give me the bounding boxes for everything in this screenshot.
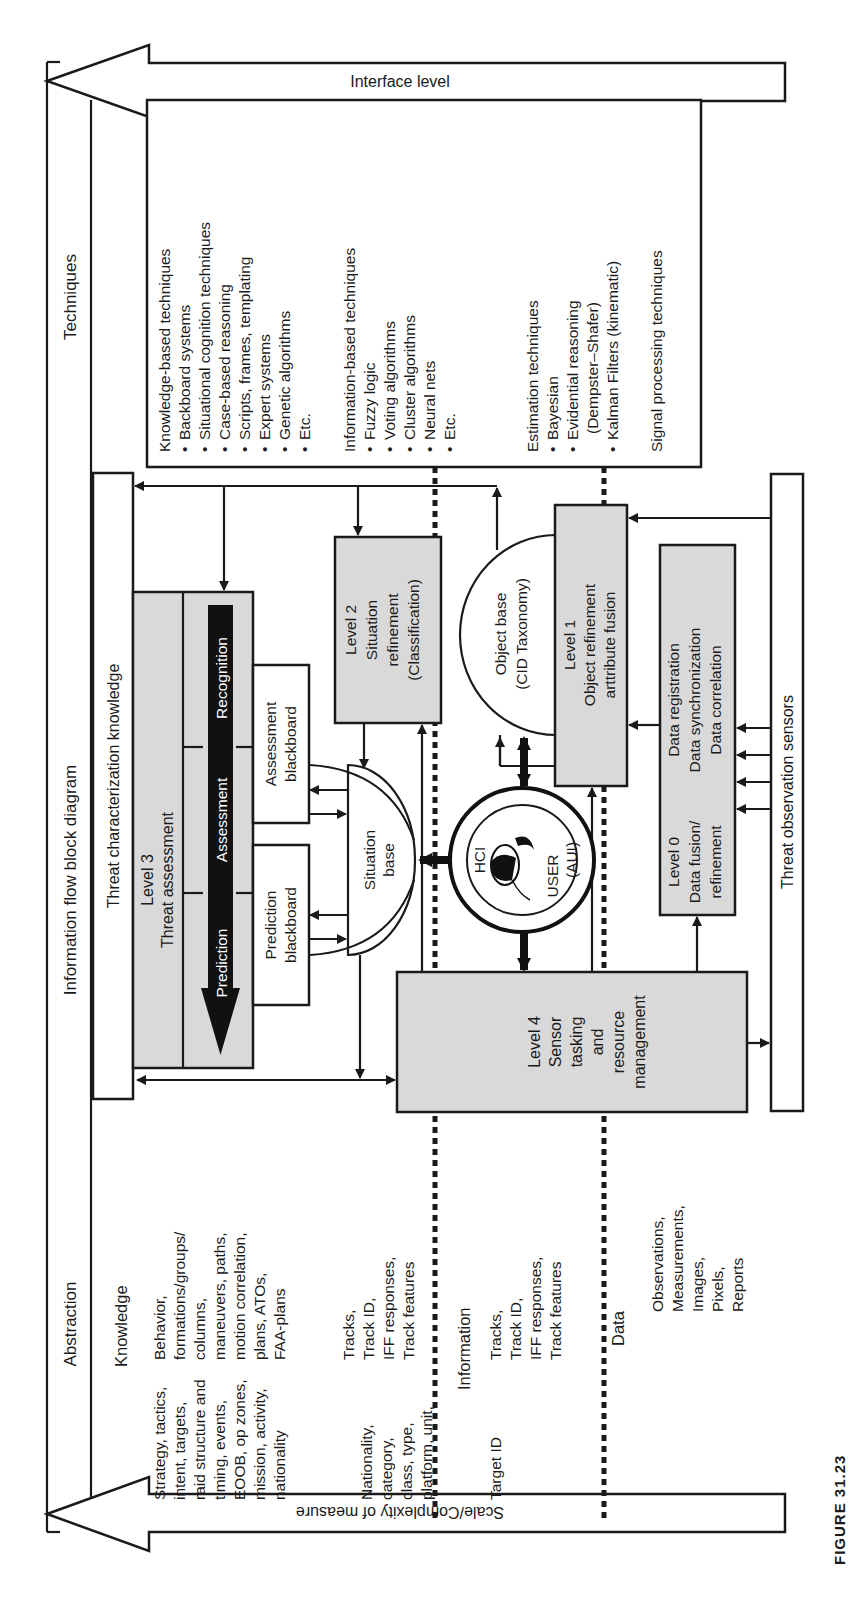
knowledge-techniques-heading: Knowledge-based techniques — [156, 248, 173, 452]
data-col2-item: Reports — [729, 1257, 746, 1312]
hci-user-node: HCI USER (AUI) — [450, 788, 594, 932]
signal-processing-techniques: Signal processing techniques — [648, 250, 665, 452]
bullet-item: • — [381, 447, 398, 452]
assessment-blackboard: Assessment blackboard — [253, 665, 309, 823]
level0-line1: Level 0 — [665, 837, 682, 887]
object-base-line1: Object base — [492, 593, 509, 676]
knowledge-col2-item: columns, — [191, 1298, 208, 1360]
knowledge-col1-item: timing, events, — [211, 1400, 228, 1500]
bullet-item: • — [196, 447, 213, 452]
knowledge-col2-item: Behavior, — [151, 1295, 168, 1360]
figure-caption: FIGURE 31.23 — [831, 1455, 848, 1565]
data-heading: Data — [609, 1310, 627, 1346]
information-flow-diagram: Interface level Scale/Complexity of meas… — [0, 0, 851, 1611]
level2-situation-refinement-block: Level 2 Situation refinement (Classifica… — [335, 537, 441, 723]
level0-line2: Data fusion/ — [686, 820, 703, 903]
technique-item: Expert systems — [256, 334, 273, 440]
bullet-item: • — [216, 447, 233, 452]
assessment-bb-line1: Assessment — [262, 701, 279, 786]
information-col2-item: IFF responses, — [527, 1257, 544, 1360]
assessment-bb-line2: blackboard — [282, 706, 299, 782]
technique-item: Bayesian — [544, 376, 561, 440]
data-correlation: Data correlation — [707, 645, 724, 754]
data-col2-item: Images, — [689, 1257, 706, 1312]
knowledge-col2-item: plans, ATOs, — [251, 1273, 268, 1360]
stage-assessment: Assessment — [213, 777, 230, 862]
bullet-item: • — [361, 447, 378, 452]
technique-item: (Dempster–Shafer) — [584, 302, 601, 434]
knowledge-col1-item: nationality — [271, 1430, 288, 1500]
level4-line3: tasking — [568, 1017, 585, 1068]
bullet-item: • — [544, 447, 561, 452]
technique-item: Etc. — [441, 413, 458, 440]
knowledge-col2-item: maneuvers, paths, — [211, 1232, 228, 1360]
technique-item: Case-based reasoning — [216, 284, 233, 440]
technique-item: Situational cognition techniques — [196, 222, 213, 440]
technique-item: Cluster algorithms — [401, 315, 418, 440]
bullet-item: • — [441, 447, 458, 452]
knowledge-info-col1-item: Nationality, — [358, 1424, 375, 1500]
threat-knowledge-label: Threat characterization knowledge — [105, 664, 122, 909]
object-base: Object base (CID Taxonomy) — [460, 535, 556, 735]
estimation-techniques-heading: Estimation techniques — [524, 300, 541, 452]
threat-sensors-bar: Threat observation sensors — [771, 474, 803, 1111]
level2-line3: refinement — [384, 593, 401, 667]
bullet-item: • — [296, 447, 313, 452]
prediction-bb-line1: Prediction — [262, 891, 279, 960]
level4-line2: Sensor — [547, 1016, 564, 1067]
information-col2-item: Tracks, — [487, 1310, 504, 1360]
information-col1-item: Target ID — [487, 1437, 504, 1500]
hci-label: HCI — [471, 847, 488, 874]
knowledge-info-col1-item: platform, unit, — [418, 1406, 435, 1500]
level3-subtitle: Threat assessment — [159, 811, 176, 948]
knowledge-col1-item: raid structure and — [191, 1379, 208, 1500]
technique-item: Scripts, frames, templating — [236, 257, 253, 440]
information-techniques-heading: Information-based techniques — [341, 248, 358, 452]
level1-object-refinement-block: Level 1 Object refinement arttribute fus… — [555, 505, 627, 786]
knowledge-heading: Knowledge — [112, 1285, 130, 1367]
bullet-item: • — [564, 447, 581, 452]
scale-complexity-label: Scale/Complexity of measure — [296, 1504, 504, 1521]
bullet-item: • — [276, 447, 293, 452]
technique-item: Kalman Filters (kinematic) — [604, 261, 621, 440]
information-heading: Information — [455, 1307, 473, 1390]
bullet-item: • — [604, 447, 621, 452]
level1-line3: arttribute fusion — [601, 592, 618, 699]
techniques-box: Knowledge-based techniques • Backboard s… — [147, 100, 701, 467]
knowledge-info-col2-item: IFF responses, — [380, 1257, 397, 1360]
knowledge-info-col1-item: class, type, — [398, 1422, 415, 1500]
bullet-item: • — [176, 447, 193, 452]
knowledge-info-col2-item: Track features — [400, 1261, 417, 1360]
level1-line1: Level 1 — [561, 620, 578, 670]
knowledge-info-col2-item: Track ID, — [360, 1298, 377, 1360]
knowledge-col1-item: Strategy, tactics, — [151, 1387, 168, 1500]
technique-item: Neural nets — [421, 360, 438, 440]
abstraction-label: Abstraction — [61, 1281, 80, 1366]
level3-threat-assessment-block: Level 3 Threat assessment Prediction Ass… — [133, 592, 253, 1068]
data-registration: Data registration — [665, 643, 682, 757]
bullet-item: • — [236, 447, 253, 452]
bullet-item: • — [421, 447, 438, 452]
level4-sensor-tasking-block: Level 4 Sensor tasking and resource mana… — [397, 972, 747, 1112]
aui-label: (AUI) — [563, 842, 580, 878]
user-label: USER — [544, 854, 561, 897]
threat-knowledge-bar: Threat characterization knowledge — [93, 473, 133, 1099]
level2-line1: Level 2 — [342, 605, 359, 655]
technique-item: Evidential reasoning — [564, 300, 581, 440]
techniques-label: Techniques — [61, 254, 80, 340]
technique-item: Voting algorithms — [381, 321, 398, 440]
knowledge-col2-item: motion correlation, — [231, 1232, 248, 1360]
technique-item: Fuzzy logic — [361, 362, 378, 440]
flow-diagram-title: Information flow block diagram — [61, 765, 80, 996]
technique-item: Genetic algorithms — [276, 311, 293, 440]
knowledge-col1-item: intent, targets, — [171, 1402, 188, 1500]
bullet-item: • — [401, 447, 418, 452]
data-col2-item: Observations, — [649, 1216, 666, 1312]
level4-line6: management — [631, 995, 648, 1089]
level4-line1: Level 4 — [526, 1016, 543, 1068]
technique-item: Backboard systems — [176, 305, 193, 440]
level4-line4: and — [589, 1029, 606, 1056]
knowledge-col1-item: EOOB, op zones, — [231, 1379, 248, 1500]
prediction-bb-line2: blackboard — [282, 887, 299, 963]
level0-line3: refinement — [707, 825, 724, 899]
